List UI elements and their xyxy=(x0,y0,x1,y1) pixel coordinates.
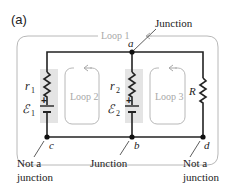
junction-bottom-leader xyxy=(120,141,129,155)
r2-sub: 2 xyxy=(116,86,120,95)
r2-label: r xyxy=(110,79,115,93)
resistor-R xyxy=(200,78,206,137)
R-label: R xyxy=(188,85,196,97)
node-d-label: d xyxy=(204,139,210,151)
junction-top-label: Junction xyxy=(155,17,193,29)
battery2-plus: + xyxy=(126,95,132,106)
emf2-sub: 2 xyxy=(116,109,120,118)
node-a-label: a xyxy=(128,37,134,49)
junction-top-leader xyxy=(133,29,156,51)
emf1-label: ℰ xyxy=(22,102,31,116)
emf1-sub: 1 xyxy=(31,109,35,118)
emf2-label: ℰ xyxy=(107,102,116,116)
not-junction-left-line2: junction xyxy=(16,171,54,183)
r1-sub: 1 xyxy=(31,86,35,95)
loop3-label: Loop 3 xyxy=(155,91,184,102)
battery1-plus: + xyxy=(41,95,47,106)
loop1-label: Loop 1 xyxy=(101,30,130,41)
loop2-label: Loop 2 xyxy=(70,91,99,102)
node-c-label: c xyxy=(49,139,54,151)
not-junction-left-leader xyxy=(34,141,44,157)
junction-bottom-label: Junction xyxy=(90,157,128,169)
not-junction-right-leader xyxy=(190,141,200,157)
circuit-diagram: (a) Loop 1 Loop 2 Loop 3 + + xyxy=(0,0,230,196)
r1-label: r xyxy=(25,79,30,93)
panel-label: (a) xyxy=(11,12,27,27)
not-junction-right-line1: Not a xyxy=(183,157,207,169)
node-b-label: b xyxy=(134,139,140,151)
not-junction-left-line1: Not a xyxy=(17,157,41,169)
not-junction-right-line2: junction xyxy=(182,171,220,183)
